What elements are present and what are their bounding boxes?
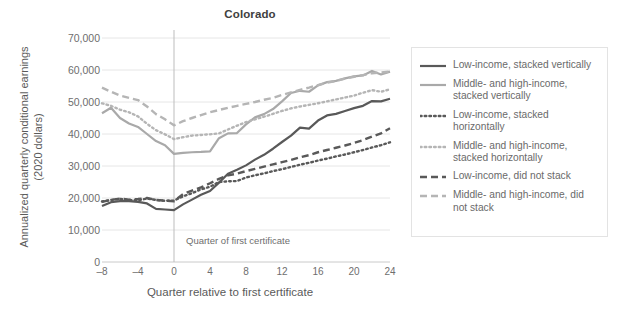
legend-item[interactable]: Low-income, did not stack (420, 170, 599, 183)
legend-line-swatch-icon (420, 78, 446, 91)
legend-line-swatch-icon (420, 170, 446, 183)
legend-item-label: Middle- and high-income, did not stack (453, 189, 599, 214)
legend-item-label: Low-income, did not stack (453, 170, 571, 182)
legend-item[interactable]: Low-income, stacked vertically (420, 59, 599, 72)
chart-legend: Low-income, stacked verticallyMiddle- an… (411, 47, 608, 237)
legend-line-swatch-icon (420, 189, 446, 202)
legend-line-swatch-icon (420, 59, 446, 72)
series-line (102, 99, 390, 210)
chart-figure: Colorado Annualized quarterly conditiona… (0, 0, 620, 311)
legend-item[interactable]: Middle- and high-income, stacked vertica… (420, 78, 599, 103)
reference-line-annotation: Quarter of first certificate (186, 235, 290, 246)
legend-item[interactable]: Middle- and high-income, stacked horizon… (420, 140, 599, 165)
series-line (102, 72, 390, 126)
legend-item[interactable]: Low-income, stacked horizontally (420, 109, 599, 134)
legend-line-swatch-icon (420, 109, 446, 122)
legend-item-label: Middle- and high-income, stacked vertica… (453, 78, 599, 103)
legend-item[interactable]: Middle- and high-income, did not stack (420, 189, 599, 214)
legend-line-swatch-icon (420, 140, 446, 153)
legend-item-label: Low-income, stacked vertically (453, 59, 591, 71)
legend-item-label: Low-income, stacked horizontally (453, 109, 599, 134)
series-line (102, 71, 390, 154)
series-line (102, 142, 390, 201)
legend-item-label: Middle- and high-income, stacked horizon… (453, 140, 599, 165)
